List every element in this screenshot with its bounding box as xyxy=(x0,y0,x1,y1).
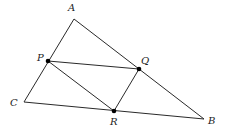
point-label-c: C xyxy=(10,97,18,108)
point-label-q: Q xyxy=(141,55,149,66)
segment-qr xyxy=(114,69,139,111)
labels: ABCPQR xyxy=(10,2,215,127)
segment-pq xyxy=(48,61,139,69)
point-q-dot xyxy=(137,67,142,72)
point-label-r: R xyxy=(109,116,118,127)
point-label-a: A xyxy=(67,2,75,13)
point-p-dot xyxy=(46,59,51,64)
point-r-dot xyxy=(112,109,117,114)
segment-pr xyxy=(48,61,114,111)
point-label-p: P xyxy=(36,52,44,63)
geometry-diagram: ABCPQR xyxy=(0,0,229,135)
segments xyxy=(24,19,204,119)
point-label-b: B xyxy=(207,115,215,126)
